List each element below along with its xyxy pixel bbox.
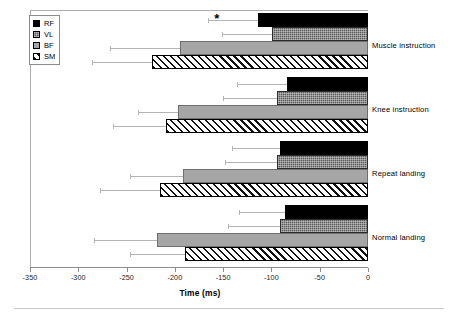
x-tick-3 — [175, 268, 176, 272]
x-axis-line — [30, 267, 368, 268]
x-tick-label-6: -50 — [300, 273, 340, 282]
x-tick-1 — [78, 268, 79, 272]
error-cap-rf-normal-landing — [239, 210, 240, 215]
error-bar-sm-muscle-instruction — [92, 62, 152, 63]
error-cap-bf-knee-instruction — [138, 110, 139, 115]
bar-bf-muscle-instruction — [180, 41, 368, 55]
bar-vl-repeat-landing — [277, 155, 368, 169]
error-bar-sm-normal-landing — [130, 254, 184, 255]
error-bar-bf-normal-landing — [94, 240, 157, 241]
bar-vl-knee-instruction — [277, 91, 368, 105]
bar-sm-normal-landing — [185, 247, 368, 261]
legend-swatch-rf-icon — [33, 20, 40, 27]
error-bar-sm-repeat-landing — [100, 190, 160, 191]
legend-item-sm: SM — [33, 51, 55, 62]
x-tick-label-7: 0 — [348, 273, 388, 282]
error-bar-vl-knee-instruction — [223, 98, 277, 99]
error-cap-sm-normal-landing — [130, 252, 131, 257]
legend-item-vl: VL — [33, 29, 55, 40]
legend-item-rf: RF — [33, 18, 55, 29]
error-bar-sm-knee-instruction — [113, 126, 166, 127]
x-tick-label-5: -100 — [251, 273, 291, 282]
error-bar-rf-repeat-landing — [232, 148, 280, 149]
error-cap-vl-muscle-instruction — [222, 32, 223, 37]
error-bar-vl-muscle-instruction — [222, 34, 272, 35]
x-tick-label-4: -150 — [203, 273, 243, 282]
error-cap-rf-knee-instruction — [237, 82, 238, 87]
error-cap-sm-knee-instruction — [113, 124, 114, 129]
x-tick-label-1: -300 — [58, 273, 98, 282]
footer-divider — [14, 308, 444, 309]
bar-vl-normal-landing — [280, 219, 368, 233]
legend-label-bf: BF — [44, 41, 54, 50]
bar-rf-normal-landing — [285, 205, 368, 219]
x-tick-4 — [223, 268, 224, 272]
x-tick-7 — [368, 268, 369, 272]
group-label-repeat-landing: Repeat landing — [372, 169, 425, 178]
error-cap-bf-muscle-instruction — [110, 46, 111, 51]
chart-legend: RF VL BF SM — [29, 15, 60, 65]
bar-sm-repeat-landing — [160, 183, 368, 197]
error-bar-bf-knee-instruction — [138, 112, 178, 113]
group-label-muscle-instruction: Muscle instruction — [372, 41, 435, 50]
bar-vl-muscle-instruction — [272, 27, 368, 41]
error-cap-vl-repeat-landing — [225, 160, 226, 165]
error-bar-bf-repeat-landing — [130, 176, 182, 177]
error-cap-rf-repeat-landing — [232, 146, 233, 151]
legend-swatch-vl-icon — [33, 31, 40, 38]
error-bar-rf-normal-landing — [239, 212, 285, 213]
bar-bf-repeat-landing — [183, 169, 368, 183]
error-cap-vl-knee-instruction — [223, 96, 224, 101]
x-tick-label-2: -250 — [107, 273, 147, 282]
error-bar-rf-knee-instruction — [237, 84, 287, 85]
bar-rf-muscle-instruction — [258, 13, 368, 27]
x-axis-title: Time (ms) — [0, 288, 400, 298]
x-tick-2 — [127, 268, 128, 272]
bar-bf-knee-instruction — [178, 105, 368, 119]
legend-item-bf: BF — [33, 40, 55, 51]
group-label-knee-instruction: Knee instruction — [372, 105, 429, 114]
bar-rf-knee-instruction — [287, 77, 368, 91]
x-tick-label-3: -200 — [155, 273, 195, 282]
x-tick-label-0: -350 — [10, 273, 50, 282]
bar-sm-knee-instruction — [166, 119, 368, 133]
legend-label-sm: SM — [44, 52, 55, 61]
error-cap-bf-normal-landing — [94, 238, 95, 243]
bar-bf-normal-landing — [157, 233, 368, 247]
legend-label-rf: RF — [44, 19, 54, 28]
legend-label-vl: VL — [44, 30, 53, 39]
legend-swatch-bf-icon — [33, 42, 40, 49]
error-cap-rf-muscle-instruction — [208, 18, 209, 23]
legend-swatch-sm-icon — [33, 53, 40, 60]
error-cap-vl-normal-landing — [228, 224, 229, 229]
bar-rf-repeat-landing — [280, 141, 368, 155]
x-tick-0 — [30, 268, 31, 272]
error-bar-bf-muscle-instruction — [110, 48, 180, 49]
x-tick-5 — [271, 268, 272, 272]
significance-marker: * — [214, 12, 219, 25]
x-tick-6 — [320, 268, 321, 272]
error-cap-sm-repeat-landing — [100, 188, 101, 193]
error-cap-bf-repeat-landing — [130, 174, 131, 179]
error-cap-sm-muscle-instruction — [92, 60, 93, 65]
error-bar-vl-repeat-landing — [225, 162, 277, 163]
bar-sm-muscle-instruction — [152, 55, 368, 69]
group-label-normal-landing: Normal landing — [372, 233, 425, 242]
error-bar-vl-normal-landing — [228, 226, 280, 227]
chart-figure: RF VL BF SM Muscle instruction Knee inst… — [0, 0, 457, 315]
